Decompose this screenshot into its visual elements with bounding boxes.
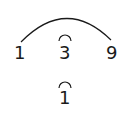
number-3: 3 <box>59 44 70 62</box>
bottom-number-1: 1 <box>59 89 70 107</box>
small-arc-over-3 <box>59 35 71 41</box>
number-9: 9 <box>106 44 117 62</box>
large-arc <box>21 18 111 42</box>
number-1: 1 <box>14 44 25 62</box>
